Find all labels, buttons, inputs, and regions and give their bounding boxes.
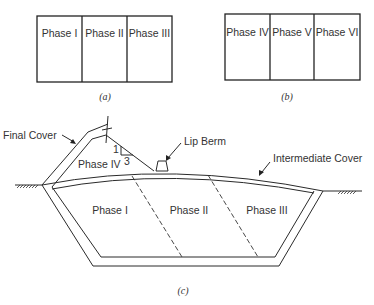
phase-divider-1-2 <box>132 176 182 257</box>
lip-berm-label: Lip Berm <box>184 135 226 147</box>
intermediate-cover-label: Intermediate Cover <box>273 152 363 164</box>
intermediate-cover-arrow-line <box>262 162 270 172</box>
figure-b-phase-4-label: Phase IV <box>226 26 269 38</box>
figure-a-phase-3-label: Phase III <box>129 27 170 39</box>
intermediate-cover-upper <box>42 174 323 191</box>
figure-c-caption: (c) <box>177 285 189 297</box>
section-phase-2-label: Phase II <box>170 204 209 216</box>
landfill-phasing-diagram: Phase I Phase II Phase III (a) Phase IV … <box>0 0 374 305</box>
figure-b-outline <box>225 14 360 80</box>
slope-rise-label: 1 <box>113 143 119 155</box>
figure-a-caption: (a) <box>99 91 111 103</box>
lip-berm-shape <box>156 161 168 171</box>
slope-run-label: 3 <box>124 155 130 167</box>
figure-a-outline <box>37 16 172 82</box>
figure-b-caption: (b) <box>281 91 293 103</box>
section-phase-3-label: Phase III <box>246 204 287 216</box>
figure-a-phase-2-label: Phase II <box>85 27 124 39</box>
liner-outer-line <box>42 185 323 266</box>
ground-surface-right <box>323 191 362 194</box>
final-cover-label: Final Cover <box>3 129 57 141</box>
figure-a-plan-view: Phase I Phase II Phase III (a) <box>37 16 172 103</box>
lip-berm-arrow-line <box>168 143 181 158</box>
intermediate-cover-lower <box>52 178 314 193</box>
section-phase-1-label: Phase I <box>92 204 128 216</box>
ground-surface-left <box>15 185 42 188</box>
liner-inner-line <box>52 187 314 257</box>
figure-c-cross-section: Final Cover Lip Berm Intermediate Cover … <box>3 116 363 297</box>
figure-b-phase-5-label: Phase V <box>272 26 312 38</box>
figure-b-plan-view: Phase IV Phase V Phase VI (b) <box>225 14 360 103</box>
figure-b-phase-6-label: Phase VI <box>316 26 359 38</box>
phase-iv-label: Phase IV <box>78 158 121 170</box>
phase-divider-2-3 <box>208 175 258 257</box>
figure-a-phase-1-label: Phase I <box>42 27 78 39</box>
